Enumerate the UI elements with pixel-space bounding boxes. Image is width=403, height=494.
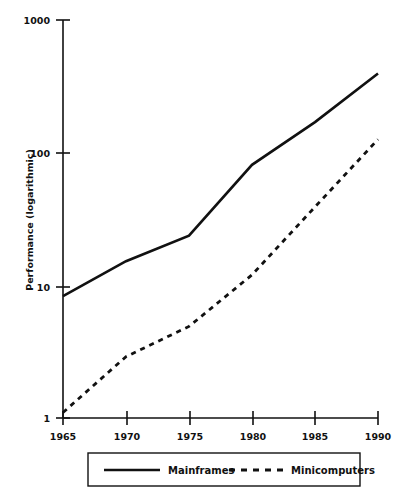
series-line-minicomputers	[63, 139, 378, 412]
y-tick-label-10: 10	[37, 282, 51, 293]
chart-legend: Mainframes Minicomputers	[88, 453, 375, 486]
x-tick-label-1970: 1970	[114, 431, 141, 442]
legend-label-mainframes: Mainframes	[168, 465, 234, 476]
series-line-mainframes	[63, 74, 378, 297]
x-tick-label-1965: 1965	[50, 431, 76, 442]
x-axis-tick-labels: 1965 1970 1975 1980 1985 1990	[50, 431, 392, 442]
chart-figure: Performance (logarithmic) 1000 100 10 1	[0, 0, 403, 494]
performance-log-line-chart: Performance (logarithmic) 1000 100 10 1	[0, 0, 403, 494]
x-tick-label-1985: 1985	[302, 431, 328, 442]
y-tick-label-100: 100	[30, 148, 50, 159]
legend-label-minicomputers: Minicomputers	[291, 465, 375, 476]
y-axis-title: Performance (logarithmic)	[24, 149, 35, 291]
x-tick-label-1980: 1980	[240, 431, 267, 442]
x-tick-label-1975: 1975	[177, 431, 203, 442]
y-tick-label-1: 1	[43, 413, 50, 424]
y-tick-label-1000: 1000	[24, 15, 51, 26]
x-tick-label-1990: 1990	[365, 431, 392, 442]
